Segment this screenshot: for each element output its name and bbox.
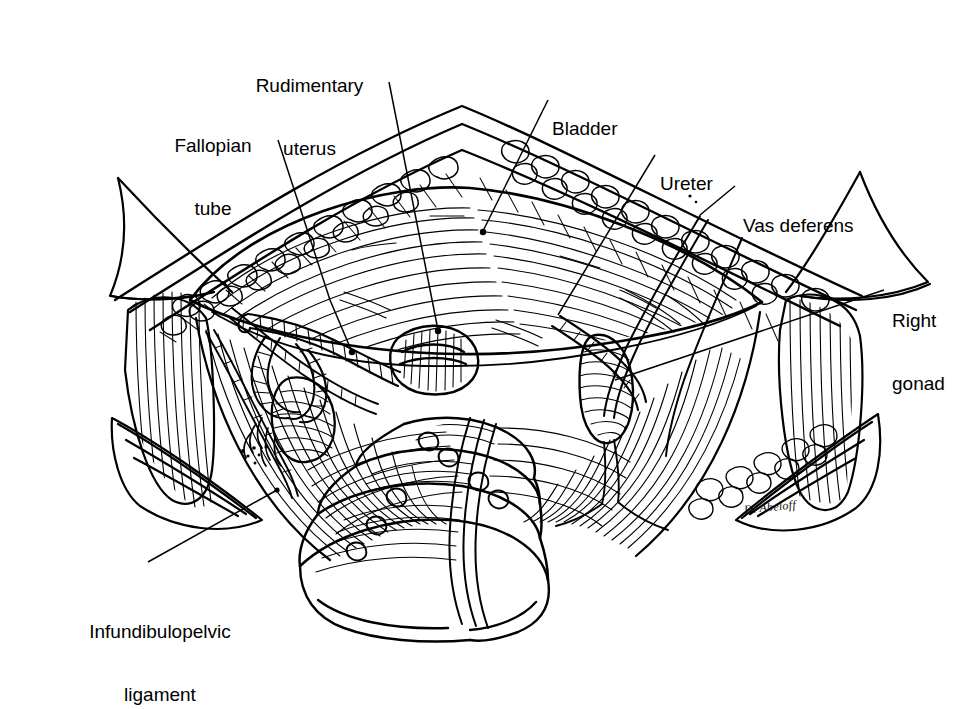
label-rudimentary-uterus-line1: Rudimentary bbox=[232, 75, 387, 96]
label-rudimentary-uterus-line2: uterus bbox=[232, 138, 387, 159]
label-vas-deferens-line1: Vas deferens bbox=[743, 215, 854, 236]
label-bladder-line1: Bladder bbox=[552, 118, 618, 139]
label-bladder: Bladder bbox=[552, 75, 618, 181]
label-infundibulopelvic-ligament-line1: Infundibulopelvic bbox=[70, 621, 250, 642]
label-rudimentary-uterus: Rudimentary uterus bbox=[232, 32, 387, 202]
label-ureter-line1: Ureter bbox=[660, 173, 713, 194]
label-right-gonad-line2: gonad bbox=[892, 373, 945, 394]
label-right-gonad: Right gonad bbox=[892, 267, 945, 437]
label-right-gonad-line1: Right bbox=[892, 310, 945, 331]
dot-fallopian-tube bbox=[349, 349, 355, 355]
label-vas-deferens: Vas deferens bbox=[743, 172, 854, 278]
colon-haustral-markings bbox=[347, 433, 509, 561]
label-ureter: Ureter bbox=[660, 130, 713, 236]
right-sidewall-striations bbox=[790, 290, 856, 503]
bowel-limbs bbox=[300, 566, 549, 642]
label-infundibulopelvic-ligament: Infundibulopelvic ligament bbox=[70, 578, 250, 709]
label-infundibulopelvic-ligament-line2: ligament bbox=[70, 684, 250, 705]
dot-rudimentary-uterus bbox=[435, 328, 441, 334]
dot-bladder bbox=[480, 229, 486, 235]
